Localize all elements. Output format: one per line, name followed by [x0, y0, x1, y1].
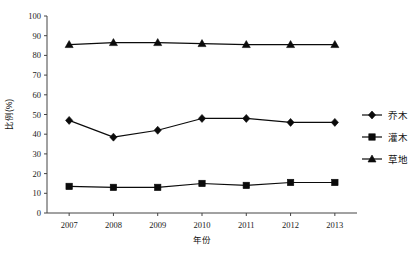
- x-tick-label: 2011: [238, 220, 255, 230]
- x-tick-label: 2012: [282, 220, 299, 230]
- data-point-乔木: [331, 118, 338, 126]
- x-tick-label: 2013: [326, 220, 343, 230]
- legend-item-灌木[interactable]: 灌木: [362, 132, 408, 143]
- data-point-灌木: [243, 182, 249, 188]
- x-tick-label: 2007: [61, 220, 78, 230]
- x-axis-title: 年份: [193, 235, 211, 245]
- legend-item-草地[interactable]: 草地: [362, 154, 408, 165]
- data-point-乔木: [66, 116, 73, 124]
- data-point-灌木: [155, 184, 161, 190]
- data-point-乔木: [198, 114, 205, 122]
- y-tick-label: 70: [33, 70, 42, 80]
- data-point-乔木: [287, 118, 294, 126]
- legend-item-乔木[interactable]: 乔木: [362, 110, 408, 121]
- y-tick-label: 0: [37, 208, 41, 218]
- legend-marker-乔木: [368, 111, 375, 119]
- y-tick-label: 60: [33, 90, 42, 100]
- x-tick-label: 2008: [105, 220, 122, 230]
- data-point-乔木: [243, 114, 250, 122]
- y-tick-label: 90: [33, 31, 42, 41]
- data-point-灌木: [287, 179, 293, 185]
- data-point-灌木: [332, 179, 338, 185]
- y-tick-label: 10: [33, 188, 42, 198]
- y-tick-label: 30: [33, 149, 42, 159]
- y-tick-label: 20: [33, 169, 42, 179]
- data-point-灌木: [199, 180, 205, 186]
- y-axis-title: 比例(%): [4, 99, 14, 130]
- data-point-乔木: [154, 126, 161, 134]
- x-tick-label: 2009: [149, 220, 166, 230]
- data-point-灌木: [110, 184, 116, 190]
- legend-label-灌木: 灌木: [388, 132, 408, 143]
- y-tick-label: 100: [28, 11, 41, 21]
- data-point-乔木: [110, 133, 117, 141]
- y-tick-label: 50: [33, 110, 42, 120]
- y-tick-label: 80: [33, 50, 42, 60]
- legend-marker-灌木: [369, 134, 375, 140]
- legend-label-草地: 草地: [388, 154, 408, 165]
- legend-label-乔木: 乔木: [388, 110, 408, 121]
- line-chart: 0102030405060708090100200720082009201020…: [0, 0, 420, 253]
- y-tick-label: 40: [33, 129, 42, 139]
- x-tick-label: 2010: [194, 220, 211, 230]
- data-point-灌木: [66, 183, 72, 189]
- chart-figure: 0102030405060708090100200720082009201020…: [0, 0, 420, 253]
